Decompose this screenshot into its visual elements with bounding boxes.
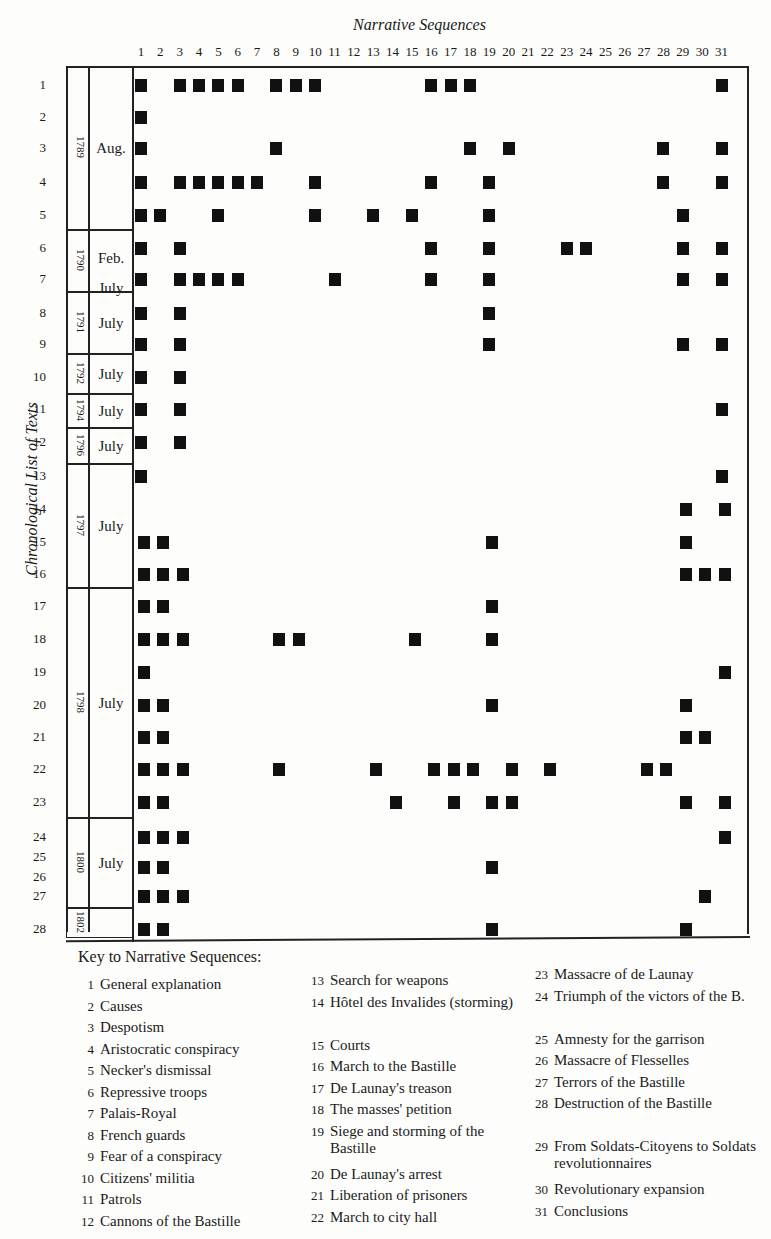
sequence-mark (135, 307, 147, 320)
sequence-mark (486, 699, 498, 712)
key-item: 3Despotism (72, 1019, 297, 1036)
sequence-mark (486, 536, 498, 549)
sequence-mark (486, 923, 498, 936)
key-label: March to city hall (330, 1209, 520, 1226)
key-number: 2 (72, 998, 94, 1015)
sequence-mark (486, 600, 498, 613)
sequence-mark (157, 796, 169, 809)
column-header: 20 (499, 44, 519, 60)
sequence-mark (680, 923, 692, 936)
sequence-mark (464, 79, 476, 92)
sequence-mark (406, 209, 418, 222)
key-label: Triumph of the victors of the B. (554, 988, 764, 1005)
key-item: 9Fear of a conspiracy (72, 1148, 297, 1165)
sequence-mark (135, 209, 147, 222)
sequence-mark (174, 176, 186, 189)
sequence-mark (157, 731, 169, 744)
column-header: 1 (131, 44, 151, 60)
sequence-mark (425, 242, 437, 255)
column-header: 10 (305, 44, 325, 60)
sequence-mark (486, 633, 498, 646)
period-month: July (90, 437, 132, 455)
key-number: 3 (72, 1019, 94, 1036)
sequence-mark (212, 79, 224, 92)
key-label: Terrors of the Bastille (554, 1074, 764, 1091)
period-month: July (90, 694, 132, 712)
row-label: 1 (22, 77, 46, 93)
sequence-mark (177, 763, 189, 776)
sequence-mark (174, 403, 186, 416)
sequence-mark (157, 536, 169, 549)
key-number: 14 (302, 994, 324, 1011)
column-header: 30 (692, 44, 712, 60)
sequence-mark (716, 176, 728, 189)
sequence-mark (716, 242, 728, 255)
sequence-mark (212, 209, 224, 222)
sequence-mark (174, 242, 186, 255)
column-header: 15 (402, 44, 422, 60)
sequence-mark (154, 209, 166, 222)
sequence-mark (680, 796, 692, 809)
sequence-mark (329, 273, 341, 286)
column-header: 13 (363, 44, 383, 60)
row-label: 25 (22, 849, 46, 865)
sequence-mark (699, 568, 711, 581)
sequence-mark (464, 142, 476, 155)
sequence-mark (138, 633, 150, 646)
sequence-mark (657, 142, 669, 155)
key-number: 9 (72, 1148, 94, 1165)
key-number: 28 (526, 1095, 548, 1112)
key-number: 6 (72, 1084, 94, 1101)
key-item: 21Liberation of prisoners (302, 1187, 527, 1204)
sequence-mark (135, 142, 147, 155)
key-number: 30 (526, 1181, 548, 1198)
sequence-mark (135, 470, 147, 483)
sequence-mark (657, 176, 669, 189)
column-header: 26 (615, 44, 635, 60)
row-label: 10 (22, 369, 46, 385)
sequence-mark (677, 338, 689, 351)
sequence-mark (425, 79, 437, 92)
column-header: 31 (712, 44, 732, 60)
sequence-mark (390, 796, 402, 809)
sequence-mark (445, 79, 457, 92)
sequence-mark (719, 831, 731, 844)
sequence-mark (716, 403, 728, 416)
key-number: 31 (526, 1203, 548, 1220)
column-header: 9 (286, 44, 306, 60)
sequence-mark (699, 731, 711, 744)
key-number: 12 (72, 1213, 94, 1230)
sequence-mark (138, 699, 150, 712)
sequence-mark (290, 79, 302, 92)
key-number: 13 (302, 972, 324, 989)
sequence-mark (409, 633, 421, 646)
row-label: 4 (22, 174, 46, 190)
key-label: General explanation (100, 976, 290, 993)
sequence-mark (135, 338, 147, 351)
period-year: 1798 (75, 691, 87, 713)
sequence-mark (157, 763, 169, 776)
sequence-mark (483, 209, 495, 222)
sequence-mark (138, 600, 150, 613)
sequence-mark (138, 861, 150, 874)
sequence-mark (212, 176, 224, 189)
sequence-mark (309, 176, 321, 189)
key-label: Despotism (100, 1019, 290, 1036)
row-label: 6 (22, 240, 46, 256)
key-number: 7 (72, 1105, 94, 1122)
sequence-mark (157, 568, 169, 581)
column-header: 18 (460, 44, 480, 60)
key-number: 15 (302, 1037, 324, 1054)
key-label: Liberation of prisoners (330, 1187, 520, 1204)
row-label: 23 (22, 794, 46, 810)
key-label: Amnesty for the garrison (554, 1031, 764, 1048)
key-item: 30Revolutionary expansion (526, 1181, 771, 1198)
sequence-mark (270, 79, 282, 92)
row-label: 22 (22, 761, 46, 777)
column-header: 4 (189, 44, 209, 60)
key-item: 20De Launay's arrest (302, 1166, 527, 1183)
key-item: 26Massacre of Flesselles (526, 1052, 771, 1069)
sequence-mark (716, 338, 728, 351)
sequence-mark (174, 79, 186, 92)
sequence-mark (677, 242, 689, 255)
